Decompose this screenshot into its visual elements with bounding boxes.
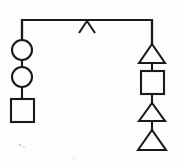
scan-speck-a: [18, 143, 21, 146]
circle-node-1: [12, 40, 32, 60]
caret-marker-group: [79, 21, 95, 33]
triangle-node-1: [139, 44, 165, 63]
square-node-2: [141, 71, 164, 94]
triangle-node-3: [138, 130, 166, 150]
scan-artifacts: [18, 143, 75, 159]
scan-speck-b: [23, 146, 25, 148]
right-descent-chain: [138, 20, 166, 150]
caret-marker-icon: [79, 21, 95, 33]
diagram-canvas: [0, 0, 183, 163]
horizontal-sibship-line: [22, 20, 152, 44]
pedigree-diagram: [0, 0, 183, 163]
top-bus-group: [22, 20, 152, 44]
triangle-node-2: [139, 103, 165, 121]
left-descent-chain: [11, 20, 34, 122]
circle-node-2: [12, 67, 32, 87]
square-node-1: [11, 99, 34, 122]
scan-speck-c: [73, 157, 76, 160]
